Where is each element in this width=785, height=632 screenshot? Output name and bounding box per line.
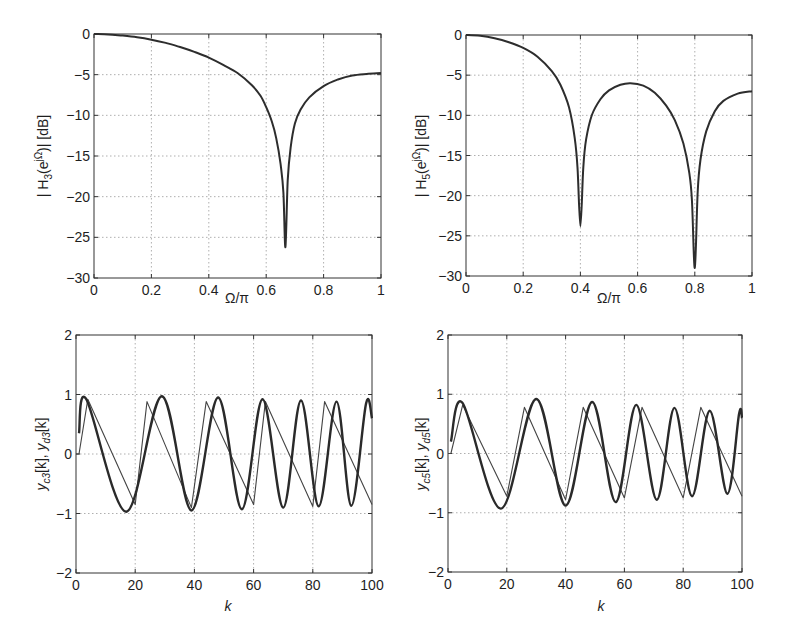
x-tick-label: 60 <box>617 576 633 592</box>
y-tick-label: −30 <box>66 270 90 286</box>
y-tick-label: 1 <box>436 386 444 402</box>
y-tick-label: −10 <box>66 107 90 123</box>
x-tick-label: 100 <box>360 577 384 593</box>
grid <box>448 335 742 572</box>
x-tick-label: 1 <box>748 280 756 296</box>
chart-y3-time: 020406080100210−1−2 k yc3[k], yd3[k] <box>0 316 392 632</box>
axis-ticks: 020406080100210−1−2 <box>428 327 754 592</box>
grid <box>466 35 752 276</box>
x-tick-label: 0.4 <box>571 280 591 296</box>
x-axis-label: k <box>225 598 233 614</box>
y-tick-label: −1 <box>428 505 444 521</box>
y-tick-label: 0 <box>82 26 90 42</box>
y-tick-label: 0 <box>436 446 444 462</box>
x-axis-label: k <box>598 598 606 614</box>
x-axis-label: Ω/π <box>225 290 249 306</box>
chart-h5-magnitude: 00.20.40.60.810−5−10−15−20−25−30 Ω/π | H… <box>392 0 785 316</box>
y-tick-label: 0 <box>454 27 462 43</box>
x-tick-label: 80 <box>305 577 321 593</box>
chart-h3-magnitude: 00.20.40.60.810−5−10−15−20−25−30 Ω/π | H… <box>0 0 392 316</box>
y-tick-label: −20 <box>66 189 90 205</box>
y-tick-label: 2 <box>436 327 444 343</box>
y-tick-label: −30 <box>438 268 462 284</box>
x-tick-label: 0.6 <box>628 280 648 296</box>
y-tick-label: −15 <box>66 148 90 164</box>
grid <box>94 34 381 278</box>
axis-ticks: 00.20.40.60.810−5−10−15−20−25−30 <box>438 27 756 296</box>
y-axis-label: | H5(ejΩ)| [dB] <box>411 115 432 197</box>
x-tick-label: 0.2 <box>513 280 533 296</box>
y-tick-label: −25 <box>438 228 462 244</box>
x-tick-label: 0.2 <box>142 282 162 298</box>
x-tick-label: 0.6 <box>256 282 276 298</box>
y-tick-label: −15 <box>438 148 462 164</box>
y-tick-label: −20 <box>438 188 462 204</box>
y-tick-label: −25 <box>66 229 90 245</box>
axes-box <box>466 35 752 276</box>
y-tick-label: 2 <box>64 327 72 343</box>
x-tick-label: 0 <box>72 577 80 593</box>
y-tick-label: −2 <box>428 564 444 580</box>
x-tick-label: 0 <box>444 576 452 592</box>
x-tick-label: 0 <box>462 280 470 296</box>
x-axis-label: Ω/π <box>597 290 621 306</box>
x-tick-label: 0 <box>90 282 98 298</box>
y-tick-label: 1 <box>64 387 72 403</box>
y-axis-label: yc5[k], yd5[k] <box>413 417 432 491</box>
y-tick-label: 0 <box>64 446 72 462</box>
x-tick-label: 0.8 <box>314 282 334 298</box>
y-tick-label: −10 <box>438 107 462 123</box>
x-tick-label: 100 <box>730 576 754 592</box>
x-tick-label: 80 <box>675 576 691 592</box>
y-tick-label: −1 <box>56 506 72 522</box>
h3-curve <box>94 34 381 247</box>
x-tick-label: 1 <box>377 282 385 298</box>
x-tick-label: 40 <box>558 576 574 592</box>
x-tick-label: 40 <box>187 577 203 593</box>
yc5-curve <box>448 405 742 500</box>
h5-curve <box>466 35 752 268</box>
x-tick-label: 0.4 <box>199 282 219 298</box>
x-tick-label: 20 <box>499 576 515 592</box>
x-tick-label: 0.8 <box>685 280 705 296</box>
axes-box <box>94 34 381 278</box>
chart-y5-time: 020406080100210−1−2 k yc5[k], yd5[k] <box>392 316 785 632</box>
x-tick-label: 20 <box>127 577 143 593</box>
x-tick-label: 60 <box>246 577 262 593</box>
y-tick-label: −5 <box>74 67 90 83</box>
y-axis-label: yc3[k], yd3[k] <box>33 417 52 491</box>
y-tick-label: −5 <box>446 67 462 83</box>
y-tick-label: −2 <box>56 565 72 581</box>
y-axis-label: | H3(ejΩ)| [dB] <box>33 115 54 197</box>
